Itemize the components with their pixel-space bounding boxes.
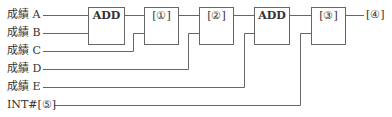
- wire-c: [43, 34, 144, 52]
- block-1-label: [①]: [144, 9, 179, 23]
- input-label-e: 成績 E: [7, 80, 41, 94]
- input-label-a: 成績 A: [7, 8, 40, 22]
- input-label-c: 成績 C: [7, 44, 41, 58]
- block-add-1-label: ADD: [88, 9, 125, 23]
- block-add-2-label: ADD: [254, 9, 290, 23]
- input-label-int: INT#[⑤]: [7, 98, 56, 112]
- block-3-label: [③]: [311, 9, 346, 23]
- wire-e: [43, 34, 254, 88]
- input-label-d: 成績 D: [7, 62, 41, 76]
- block-2-label: [②]: [199, 9, 234, 23]
- output-label: [④]: [366, 8, 385, 22]
- input-label-b: 成績 B: [7, 26, 41, 40]
